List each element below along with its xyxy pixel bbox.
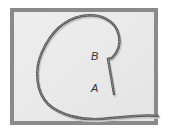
label-b: B — [91, 51, 98, 62]
photo-background — [14, 12, 154, 121]
rope-illustration — [0, 0, 169, 133]
label-a: A — [91, 83, 98, 94]
